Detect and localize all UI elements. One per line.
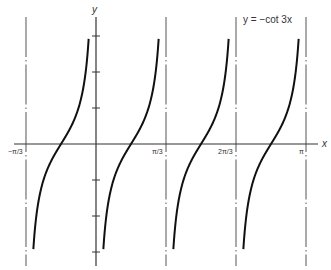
asymptote-lines <box>26 17 306 266</box>
tick-label-neg-pi-3: −π/3 <box>8 148 23 155</box>
tick-label-pi-3: π/3 <box>152 148 163 155</box>
cot-chart: y x y = −cot 3x −π/3 π/3 2π/3 π <box>0 0 331 270</box>
y-axis-label: y <box>91 4 98 15</box>
equation-label: y = −cot 3x <box>243 14 292 25</box>
tick-label-pi: π <box>299 148 304 155</box>
tick-label-2pi-3: 2π/3 <box>218 148 233 155</box>
x-axis-label: x <box>321 138 328 149</box>
